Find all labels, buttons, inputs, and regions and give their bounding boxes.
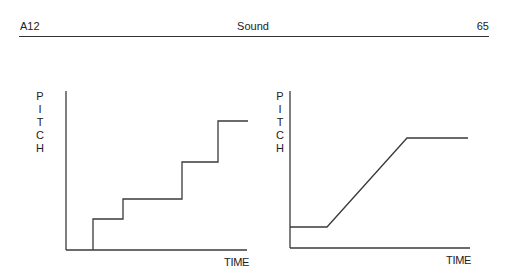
left-chart xyxy=(66,91,248,250)
left-step-line xyxy=(93,121,248,250)
figure-canvas xyxy=(0,0,506,277)
right-chart xyxy=(290,91,470,248)
right-glide-line xyxy=(290,138,468,227)
